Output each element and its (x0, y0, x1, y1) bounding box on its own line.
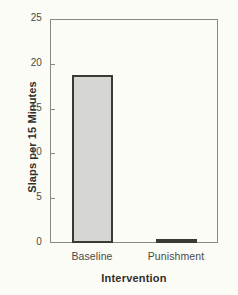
y-axis-tick-label: 5 (36, 191, 42, 202)
y-axis-tick-label: 25 (31, 12, 42, 23)
x-axis-title: Intervention (50, 272, 218, 284)
y-axis-tick-label: 15 (31, 102, 42, 113)
bar-punishment (156, 239, 197, 243)
x-axis-tick-label: Punishment (134, 250, 218, 262)
y-axis-tick-label: 20 (31, 57, 42, 68)
y-axis-tick-label: 10 (31, 146, 42, 157)
bar-baseline (72, 75, 113, 243)
x-axis-tick-label: Baseline (50, 250, 134, 262)
y-axis-tick-label: 0 (36, 236, 42, 247)
chart-figure: Slaps per 15 Minutes 0510152025 Baseline… (0, 0, 238, 295)
y-axis-tick-group: 0510152025 (0, 0, 50, 295)
